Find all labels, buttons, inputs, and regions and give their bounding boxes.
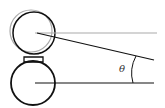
diagram-canvas (0, 0, 165, 108)
theta-label: θ (119, 63, 125, 74)
angle-arc (132, 56, 136, 83)
deflected-line (37, 33, 154, 60)
